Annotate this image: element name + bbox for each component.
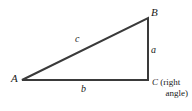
vertex-label-a: A	[11, 73, 18, 84]
side-label-b: b	[81, 84, 86, 94]
vertex-label-b: B	[151, 7, 158, 18]
right-triangle-figure: A B c a b C (right angle)	[0, 0, 192, 111]
right-angle-line-1: C (right	[152, 77, 192, 88]
triangle-outline	[22, 18, 148, 80]
right-angle-text-part1: (right	[158, 77, 180, 87]
vertex-label-c-right-angle: C (right angle)	[152, 77, 192, 100]
side-label-c: c	[75, 34, 79, 44]
right-angle-text-part2: angle)	[152, 88, 192, 99]
side-label-a: a	[151, 45, 156, 55]
